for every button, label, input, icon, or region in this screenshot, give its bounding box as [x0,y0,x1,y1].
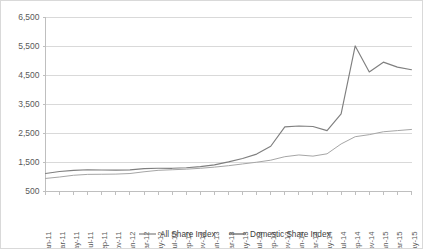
series-line-all-share-index [46,46,412,174]
x-axis-tick-label: May-11 [72,232,81,249]
y-axis-tick-label: 5,500 [18,41,40,51]
chart-container: 6,5005,5004,5003,5002,5001,500500 Jan-11… [0,0,423,249]
x-axis-tick-label: Sep-11 [100,232,109,249]
legend-label-2: Domestic Share Index [250,230,331,239]
x-axis-tick-label: May-15 [410,232,419,249]
y-axis-tick-label: 6,500 [18,12,40,22]
x-axis-tick-label: Mar-11 [58,232,67,249]
line-chart: 6,5005,5004,5003,5002,5001,500500 Jan-11… [1,1,423,249]
x-axis-tick-label: Nov-14 [367,232,376,249]
data-series [46,46,412,179]
x-axis-tick-label: Jan-12 [128,232,137,249]
series-line-domestic-share-index [46,129,412,178]
y-axis-tick-label: 4,500 [18,70,40,80]
y-axis-tick-label: 3,500 [18,99,40,109]
y-axis-tick-label: 1,500 [18,157,40,167]
legend-label-1: All Share Index [160,230,216,239]
x-axis-tick-label: Sep-14 [353,232,362,249]
x-axis-tick-label: Jan-15 [381,232,390,249]
x-axis-tick-label: Mar-15 [395,232,404,249]
x-axis-tick-label: Jul-11 [86,232,95,249]
x-axis-tick-label: Jan-11 [44,232,53,249]
y-axis-tick-label: 500 [25,186,39,196]
y-axis-tick-label: 2,500 [18,128,40,138]
y-axis-tick-labels: 6,5005,5004,5003,5002,5001,500500 [18,12,40,196]
x-axis-tick-label: Jul-14 [339,232,348,249]
x-axis-tick-label: Nov-11 [114,232,123,249]
